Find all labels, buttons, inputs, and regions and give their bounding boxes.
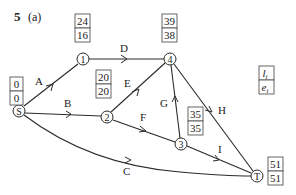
edge-G: G — [160, 65, 180, 138]
edge-label-D: D — [120, 42, 128, 54]
edge-H: H — [174, 64, 253, 171]
svg-text:2: 2 — [105, 112, 110, 123]
question-number: 5 — [14, 9, 21, 24]
edge-label-B: B — [64, 97, 71, 109]
edge-label-C: C — [123, 165, 130, 177]
legend-box: li ei — [259, 66, 274, 95]
edge-E: E — [111, 63, 165, 112]
edge-D: D — [89, 42, 164, 63]
arrow-icon — [139, 126, 146, 132]
node-4: 4 — [164, 53, 176, 65]
edge-F: F — [113, 111, 175, 142]
node-1: 1 — [77, 53, 89, 65]
late-time: 24 — [77, 15, 89, 27]
svg-text:S: S — [16, 106, 22, 117]
early-time: 16 — [77, 29, 89, 41]
event-box-1: 24 16 — [75, 14, 90, 42]
early-time: 38 — [164, 29, 176, 41]
late-time: 51 — [270, 158, 281, 170]
early-time: 0 — [14, 92, 20, 104]
edge-B: B — [25, 97, 101, 118]
early-time: 20 — [98, 85, 110, 97]
event-box-T: 51 51 — [268, 157, 283, 185]
svg-text:1: 1 — [81, 54, 86, 65]
activity-network-diagram: 5 (a) A B C D E F G — [0, 0, 296, 195]
edge-I: I — [187, 143, 251, 173]
late-time: 39 — [164, 15, 176, 27]
event-box-3: 35 35 — [188, 107, 203, 135]
late-time: 35 — [190, 108, 202, 120]
node-3: 3 — [175, 138, 187, 150]
question-part: (a) — [28, 10, 41, 24]
event-box-2: 20 20 — [96, 70, 111, 98]
node-T: T — [251, 170, 263, 182]
event-box-4: 39 38 — [162, 14, 177, 42]
edge-label-A: A — [35, 75, 43, 87]
edge-label-F: F — [140, 111, 146, 123]
early-time: 35 — [190, 122, 202, 134]
late-time: 20 — [98, 71, 110, 83]
node-S: S — [13, 105, 25, 117]
arrow-icon — [125, 157, 131, 163]
svg-text:4: 4 — [168, 54, 173, 65]
event-box-S: 0 0 — [10, 77, 23, 105]
svg-text:3: 3 — [179, 139, 184, 150]
node-2: 2 — [101, 111, 113, 123]
late-time: 0 — [14, 78, 20, 90]
edge-label-G: G — [160, 97, 168, 109]
edge-label-E: E — [124, 77, 131, 89]
early-time: 51 — [270, 172, 281, 184]
svg-text:T: T — [254, 171, 260, 182]
edge-label-I: I — [218, 143, 222, 155]
edge-label-H: H — [218, 104, 226, 116]
edge-C: C — [24, 115, 251, 177]
